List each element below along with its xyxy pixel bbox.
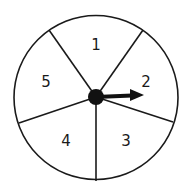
spinner: 1 2 3 4 5 xyxy=(0,0,185,192)
section-label-3: 3 xyxy=(121,132,131,150)
section-label-1: 1 xyxy=(91,36,101,54)
spinner-hub xyxy=(88,89,104,105)
section-label-2: 2 xyxy=(141,73,151,91)
section-label-5: 5 xyxy=(41,73,51,91)
section-label-4: 4 xyxy=(61,132,71,150)
